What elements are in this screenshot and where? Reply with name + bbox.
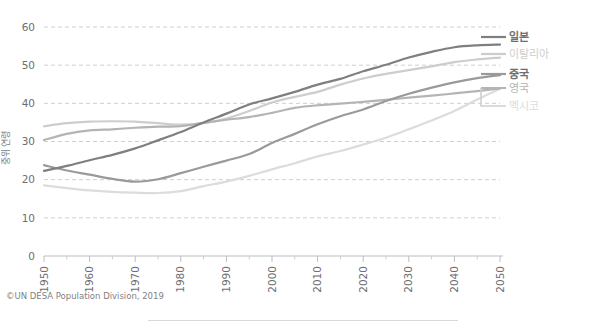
y-axis-title-text: 중위 연령 bbox=[0, 131, 11, 166]
legend-label-2: 중국 bbox=[509, 68, 529, 81]
source-caption: ©UN DESA Population Division, 2019 bbox=[6, 291, 164, 301]
x-tick-label: 1990 bbox=[220, 266, 232, 293]
x-tick-label: 1950 bbox=[38, 266, 50, 293]
y-tick-label: 40 bbox=[22, 97, 35, 109]
y-axis-tick-labels: 0102030405060 bbox=[22, 21, 35, 262]
x-tick-label: 1960 bbox=[83, 266, 95, 293]
x-axis-line bbox=[44, 256, 503, 262]
x-tick-label: 2040 bbox=[448, 266, 460, 293]
y-tick-label: 30 bbox=[22, 135, 35, 147]
median-age-line-chart: 0102030405060 19501960197019801990200020… bbox=[0, 0, 603, 325]
legend-label-3: 영국 bbox=[509, 82, 529, 95]
x-tick-label: 2030 bbox=[402, 266, 414, 293]
series-line-1 bbox=[44, 58, 500, 127]
series-line-0 bbox=[44, 45, 500, 171]
x-tick-label: 2050 bbox=[494, 266, 506, 293]
y-tick-label: 60 bbox=[22, 21, 35, 33]
y-tick-label: 50 bbox=[22, 59, 35, 71]
x-axis-tick-labels: 1950196019701980199020002010202020302040… bbox=[38, 266, 506, 293]
legend: 일본이탈리아중국영국멕시코 bbox=[481, 30, 549, 113]
y-tick-label: 20 bbox=[22, 173, 35, 185]
bottom-divider bbox=[148, 320, 458, 321]
grid-lines bbox=[44, 27, 500, 218]
x-tick-label: 1970 bbox=[129, 266, 141, 293]
legend-item-0[interactable]: 일본 bbox=[481, 30, 529, 44]
series-lines bbox=[44, 45, 500, 194]
y-tick-label: 0 bbox=[28, 250, 35, 262]
legend-item-2[interactable]: 중국 bbox=[481, 68, 529, 81]
legend-label-1: 이탈리아 bbox=[509, 48, 549, 61]
y-tick-label: 10 bbox=[22, 212, 35, 224]
series-line-3 bbox=[44, 88, 500, 140]
x-tick-label: 1980 bbox=[174, 266, 186, 293]
series-line-4 bbox=[44, 89, 500, 193]
legend-label-4: 멕시코 bbox=[509, 100, 539, 113]
chart-canvas: 0102030405060 19501960197019801990200020… bbox=[0, 0, 603, 325]
legend-label-0: 일본 bbox=[509, 30, 529, 44]
x-tick-label: 2010 bbox=[311, 266, 323, 293]
x-tick-label: 2020 bbox=[357, 266, 369, 293]
x-tick-label: 2000 bbox=[266, 266, 278, 293]
legend-item-4[interactable]: 멕시코 bbox=[502, 100, 539, 113]
y-axis-title: 중위 연령 bbox=[0, 131, 11, 166]
